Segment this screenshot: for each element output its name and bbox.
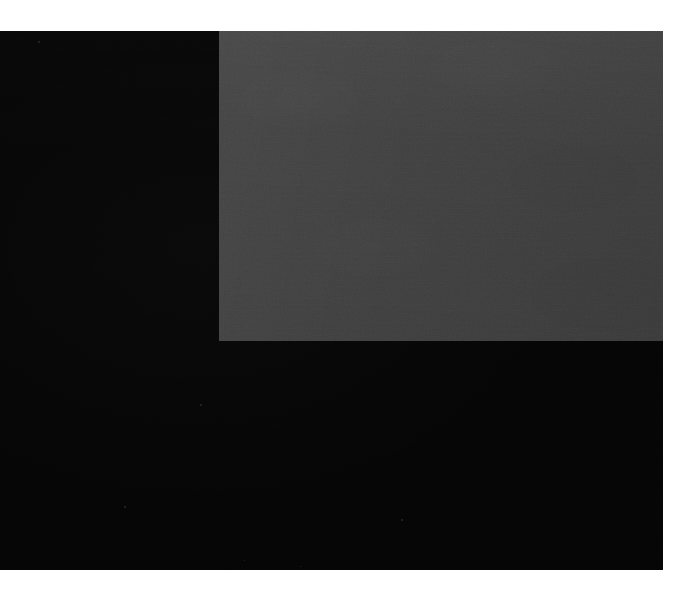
gray-field-banding [219,31,663,341]
image-canvas [0,0,674,597]
gray-field-grain-texture [219,31,663,341]
gray-field-region [219,31,663,341]
gray-field-mottling [219,31,663,341]
